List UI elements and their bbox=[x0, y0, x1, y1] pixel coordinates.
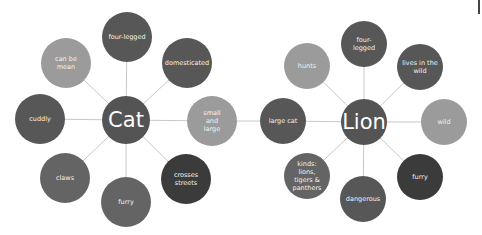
node-label: cuddly bbox=[29, 115, 51, 123]
node-furry: furry bbox=[397, 154, 443, 200]
node-label: small and large bbox=[197, 109, 227, 133]
node-label: claws bbox=[56, 174, 74, 182]
node-four-legged: four-legged bbox=[102, 12, 152, 62]
node-claws: claws bbox=[40, 153, 90, 203]
node-wild: wild bbox=[421, 99, 467, 145]
hub-label: Lion bbox=[342, 110, 386, 134]
concept-map-diagram: Cat four-legged domesticated small and l… bbox=[0, 0, 482, 235]
node-can-be-mean: can be mean bbox=[41, 38, 91, 88]
node-label: domesticated bbox=[165, 59, 209, 67]
node-kinds: kinds: lions, tigers & panthers bbox=[284, 153, 330, 199]
node-cuddly: cuddly bbox=[15, 94, 65, 144]
node-label: four-legged bbox=[351, 36, 377, 52]
node-furry: furry bbox=[101, 177, 151, 227]
node-small-and-large: small and large bbox=[187, 96, 237, 146]
node-label: furry bbox=[118, 198, 134, 206]
hub-label: Cat bbox=[108, 108, 144, 132]
hub-node-lion: Lion bbox=[341, 99, 387, 145]
node-crosses-streets: crosses streets bbox=[161, 154, 211, 204]
node-label: can be mean bbox=[45, 55, 87, 71]
node-label: lives in the wild bbox=[402, 59, 438, 75]
node-label: kinds: lions, tigers & panthers bbox=[291, 160, 323, 192]
window-edge-mark bbox=[478, 0, 480, 14]
node-label: dangerous bbox=[346, 195, 380, 203]
node-label: large cat bbox=[269, 117, 298, 125]
node-label: furry bbox=[412, 173, 428, 181]
node-label: wild bbox=[437, 118, 450, 126]
node-four-legged: four-legged bbox=[341, 21, 387, 67]
node-label: four-legged bbox=[108, 33, 145, 41]
node-large-cat: large cat bbox=[260, 98, 306, 144]
hub-node-cat: Cat bbox=[102, 96, 150, 144]
node-domesticated: domesticated bbox=[162, 38, 212, 88]
node-hunts: hunts bbox=[284, 43, 330, 89]
node-lives-in-the-wild: lives in the wild bbox=[397, 44, 443, 90]
node-dangerous: dangerous bbox=[340, 176, 386, 222]
node-label: crosses streets bbox=[171, 171, 201, 187]
node-label: hunts bbox=[298, 62, 316, 70]
